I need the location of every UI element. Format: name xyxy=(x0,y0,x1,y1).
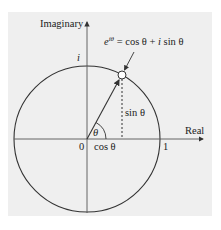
imaginary-axis-label: Imaginary xyxy=(40,18,84,29)
unit-circle-diagram: Imaginary Real i 0 1 θ cos θ sin θ eiθ =… xyxy=(0,0,221,230)
radius-vector-arrow xyxy=(87,80,119,139)
formula-pointer-arrow xyxy=(125,52,135,70)
real-axis-label: Real xyxy=(185,125,204,136)
origin-label: 0 xyxy=(79,141,84,152)
sin-label: sin θ xyxy=(125,107,145,118)
point-on-circle xyxy=(118,71,126,79)
euler-formula-label: eiθ = cos θ + i sin θ xyxy=(104,35,184,47)
i-label: i xyxy=(77,52,80,63)
theta-label: θ xyxy=(93,127,98,138)
cos-label: cos θ xyxy=(94,141,116,152)
one-label: 1 xyxy=(163,141,168,152)
